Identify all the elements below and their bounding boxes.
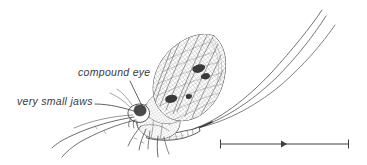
scale-bar-arrowhead [281,141,287,148]
label-very-small-jaws: very small jaws [17,95,93,107]
forewing-venation [148,28,234,124]
mayfly-figure: compound eye very small jaws [0,0,367,165]
label-compound-eye: compound eye [78,66,150,78]
scale-bar [220,140,349,149]
insect-body [52,10,335,157]
compound-eye [134,105,146,116]
antennae [110,89,132,107]
forewing [148,28,234,124]
mayfly-illustration [0,0,367,165]
